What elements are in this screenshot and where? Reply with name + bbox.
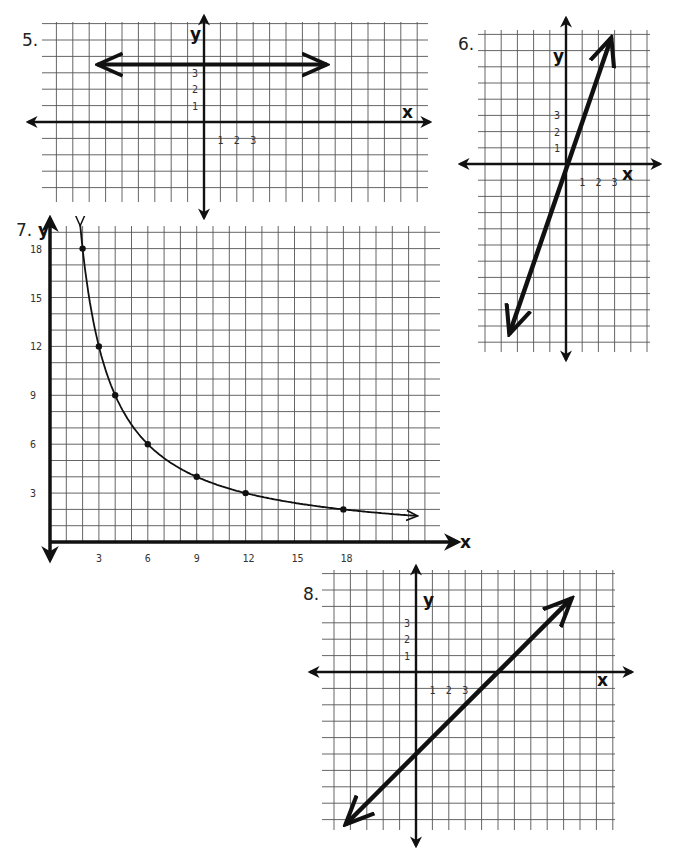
x-axis-label: x bbox=[460, 532, 471, 552]
x-tick-label: 18 bbox=[340, 553, 352, 564]
y-tick-label: 3 bbox=[404, 618, 410, 629]
y-tick-label: 15 bbox=[30, 293, 42, 304]
x-tick-label: 3 bbox=[462, 685, 468, 696]
x-tick-label: 1 bbox=[429, 685, 435, 696]
x-tick-label: 2 bbox=[446, 685, 452, 696]
y-tick-label: 9 bbox=[30, 390, 36, 401]
axes bbox=[50, 218, 458, 560]
y-tick-label: 6 bbox=[30, 439, 36, 450]
data-point bbox=[96, 343, 102, 349]
data-point bbox=[242, 490, 248, 496]
problem-number: 5. bbox=[22, 30, 38, 50]
plotted-line bbox=[345, 598, 571, 824]
x-tick-label: 1 bbox=[217, 135, 223, 146]
grid bbox=[478, 30, 650, 352]
y-tick-label: 1 bbox=[554, 143, 560, 154]
y-tick-label: 1 bbox=[192, 101, 198, 112]
x-tick-label: 6 bbox=[145, 553, 151, 564]
graph-8: 8.xy123123 bbox=[303, 566, 632, 846]
data-point bbox=[194, 474, 200, 480]
problem-number: 7. bbox=[16, 220, 32, 240]
data-point bbox=[340, 506, 346, 512]
x-tick-label: 3 bbox=[612, 177, 618, 188]
axes bbox=[310, 566, 632, 846]
x-tick-label: 2 bbox=[234, 135, 240, 146]
y-tick-label: 1 bbox=[404, 651, 410, 662]
y-tick-label: 18 bbox=[30, 244, 42, 255]
graph-7: 7.xy369121518369121518 bbox=[16, 218, 471, 564]
y-tick-label: 2 bbox=[404, 634, 410, 645]
y-axis-label: y bbox=[190, 24, 201, 44]
x-tick-label: 3 bbox=[250, 135, 256, 146]
y-tick-label: 12 bbox=[30, 341, 42, 352]
y-tick-label: 3 bbox=[192, 68, 198, 79]
x-tick-label: 9 bbox=[194, 553, 200, 564]
x-tick-label: 3 bbox=[96, 553, 102, 564]
x-axis-label: x bbox=[402, 102, 413, 122]
data-point bbox=[112, 392, 118, 398]
x-tick-label: 2 bbox=[595, 177, 601, 188]
x-tick-label: 12 bbox=[243, 553, 255, 564]
worksheet-canvas: 5.xy1231236.xy1231237.xy3691215183691215… bbox=[0, 0, 678, 856]
y-tick-label: 2 bbox=[554, 127, 560, 138]
x-tick-label: 1 bbox=[579, 177, 585, 188]
x-axis-label: x bbox=[597, 670, 608, 690]
y-axis-label: y bbox=[38, 220, 49, 240]
x-axis-label: x bbox=[622, 164, 633, 184]
y-tick-label: 3 bbox=[30, 488, 36, 499]
problem-number: 8. bbox=[303, 584, 319, 604]
y-tick-label: 3 bbox=[554, 110, 560, 121]
data-point bbox=[79, 245, 85, 251]
problem-number: 6. bbox=[458, 34, 474, 54]
data-point bbox=[145, 441, 151, 447]
y-axis-label: y bbox=[553, 46, 564, 66]
grid bbox=[42, 22, 428, 202]
y-tick-label: 2 bbox=[192, 84, 198, 95]
graph-6: 6.xy123123 bbox=[458, 18, 660, 360]
y-axis-label: y bbox=[423, 590, 434, 610]
curve bbox=[80, 225, 417, 516]
x-tick-label: 15 bbox=[292, 553, 304, 564]
graph-5: 5.xy123123 bbox=[22, 16, 430, 218]
